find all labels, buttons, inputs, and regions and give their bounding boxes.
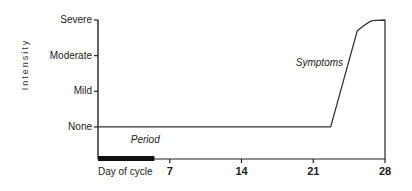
x-tick-label-28: 28 xyxy=(379,165,391,177)
x-axis-title: Day of cycle xyxy=(98,166,153,177)
y-tick-label-moderate: Moderate xyxy=(50,50,93,61)
chart: NoneMildModerateSevereIntensity7142128Da… xyxy=(0,0,412,191)
period-bar xyxy=(98,156,154,161)
x-tick-label-7: 7 xyxy=(167,165,173,177)
annotation-symptoms: Symptoms xyxy=(296,57,343,68)
x-tick-label-14: 14 xyxy=(235,165,248,177)
y-axis-title: Intensity xyxy=(20,39,30,91)
y-tick-label-none: None xyxy=(68,121,92,132)
y-tick-label-mild: Mild xyxy=(74,85,92,96)
x-tick-label-21: 21 xyxy=(307,165,319,177)
annotation-period: Period xyxy=(131,134,160,145)
y-tick-label-severe: Severe xyxy=(60,14,92,25)
